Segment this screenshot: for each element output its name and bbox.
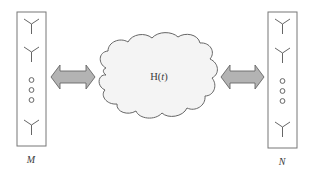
receiver-array: N [268,12,297,167]
double-arrow-icon [51,65,95,89]
mimo-diagram: M H(t) N [0,0,311,171]
transmitter-label: M [26,154,36,165]
channel-cloud: H(t) [99,33,217,118]
transmitter-array: M [17,12,46,165]
double-arrow-icon [221,65,264,89]
receiver-label: N [278,156,287,167]
channel-label: H(t) [150,71,168,83]
